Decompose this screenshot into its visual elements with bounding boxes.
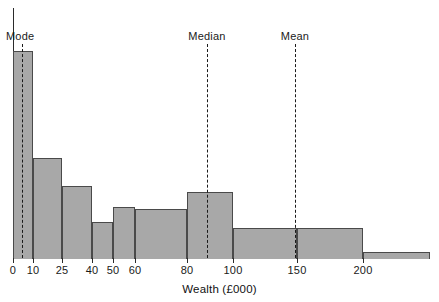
- x-axis-tick: [233, 258, 234, 263]
- x-axis-tick-label: 10: [27, 264, 40, 276]
- histogram-figure: 0102540506080100150200 ModeMedianMean We…: [0, 0, 439, 302]
- x-axis-tick: [297, 258, 298, 263]
- x-axis-tick: [13, 258, 14, 263]
- histogram-bar: [62, 186, 92, 259]
- histogram-bar: [297, 228, 363, 259]
- x-axis-tick: [135, 258, 136, 263]
- stat-label-mode: Mode: [6, 30, 34, 42]
- histogram-bar: [13, 51, 33, 259]
- histogram-bar: [92, 222, 113, 259]
- stat-line-mode: [22, 44, 23, 258]
- x-axis-tick: [363, 258, 364, 263]
- stat-label-mean: Mean: [281, 30, 309, 42]
- stat-line-median: [207, 44, 208, 258]
- x-axis-tick-label: 50: [107, 264, 120, 276]
- x-axis-tick: [187, 258, 188, 263]
- x-axis-tick-label: 100: [224, 264, 243, 276]
- x-axis-tick-label: 150: [288, 264, 307, 276]
- x-axis-tick-label: 200: [354, 264, 373, 276]
- x-axis-tick: [33, 258, 34, 263]
- x-axis-tick-label: 25: [56, 264, 69, 276]
- x-axis-tick-label: 60: [129, 264, 142, 276]
- histogram-bar: [33, 158, 62, 259]
- x-axis-tick: [62, 258, 63, 263]
- histogram-bar: [363, 252, 430, 259]
- histogram-bar: [233, 228, 297, 259]
- x-axis-title: Wealth (£000): [0, 283, 439, 295]
- stat-label-median: Median: [188, 30, 225, 42]
- histogram-bar: [135, 209, 187, 259]
- histogram-bar: [113, 207, 135, 259]
- x-axis-tick-label: 40: [86, 264, 99, 276]
- histogram-bar: [187, 192, 233, 259]
- x-axis-tick-label: 0: [10, 264, 16, 276]
- x-axis-tick: [92, 258, 93, 263]
- x-axis-tick: [113, 258, 114, 263]
- plot-area: 0102540506080100150200 ModeMedianMean: [0, 0, 439, 302]
- x-axis-tick-label: 80: [181, 264, 194, 276]
- stat-line-mean: [295, 44, 296, 258]
